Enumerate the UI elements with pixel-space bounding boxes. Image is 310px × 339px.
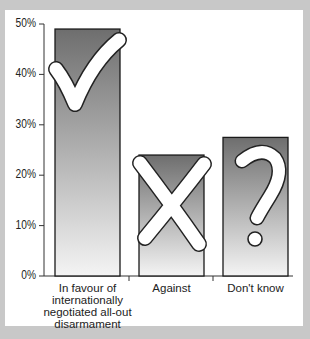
y-tick-label: 40%	[5, 66, 36, 80]
category-label-line: disarmament	[38, 318, 138, 330]
category-label-line: negotiated all-out	[38, 306, 138, 318]
y-tick-label: 10%	[5, 218, 36, 232]
y-tick-label: 0%	[5, 268, 36, 282]
category-label: Don't know	[206, 282, 306, 294]
y-tick-label: 50%	[5, 16, 36, 30]
category-label-line: Don't know	[206, 282, 306, 294]
y-tick-label: 30%	[5, 117, 36, 131]
y-tick-label: 20%	[5, 167, 36, 181]
category-label-line: internationally	[38, 294, 138, 306]
